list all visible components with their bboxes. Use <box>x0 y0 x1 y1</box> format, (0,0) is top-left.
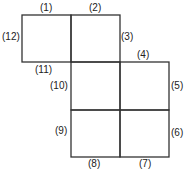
edge-label-6: (6) <box>171 128 183 138</box>
edge-label-7: (7) <box>139 159 151 169</box>
edge-label-5: (5) <box>171 81 183 91</box>
square-bottom-right <box>120 110 169 157</box>
square-top-left <box>22 15 71 62</box>
edge-label-9: (9) <box>55 126 67 136</box>
edge-label-2: (2) <box>89 3 101 13</box>
square-mid-right <box>120 62 169 110</box>
edge-label-11: (11) <box>35 65 52 75</box>
edge-label-4: (4) <box>137 50 149 60</box>
edge-label-1: (1) <box>40 3 52 13</box>
grid-diagram <box>0 0 185 170</box>
square-top-right <box>71 15 120 62</box>
edge-label-12: (12) <box>2 32 20 42</box>
edge-label-3: (3) <box>121 32 133 42</box>
edge-label-10: (10) <box>50 81 68 91</box>
square-mid-left <box>71 62 120 110</box>
square-bottom-left <box>71 110 120 157</box>
edge-label-8: (8) <box>88 159 100 169</box>
